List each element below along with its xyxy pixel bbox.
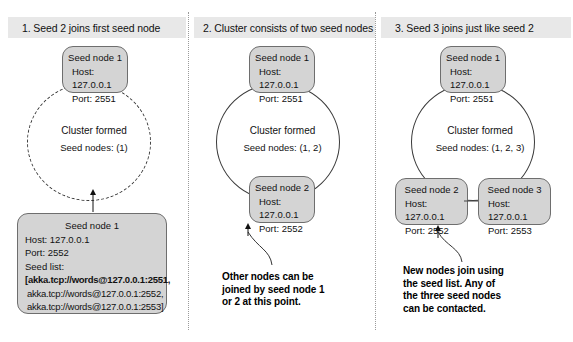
- node-seed-node-1-top: Seed node 1 Host: 127.0.0.1 Port: 2551: [62, 46, 128, 93]
- node-seed-list-entry-3: akka.tcp://words@127.0.0.1:2553]: [18, 300, 166, 314]
- node-host: Host: 127.0.0.1: [250, 195, 314, 222]
- node-host: Host: 127.0.0.1: [250, 65, 314, 92]
- node-port: Port: 2551: [441, 92, 505, 106]
- node-host: Host: 127.0.0.1: [63, 65, 127, 92]
- cluster-seed-nodes-3: Seed nodes: (1, 2, 3): [377, 142, 573, 153]
- node-seed-node-2: Seed node 2 Host: 127.0.0.1 Port: 2552: [395, 178, 468, 225]
- node-port: Port: 2551: [63, 92, 127, 106]
- node-title: Seed node 1: [441, 51, 505, 65]
- cluster-seed-node-diagram: 1. Seed 2 joins first seed node Cluster …: [0, 0, 573, 342]
- node-host: Host: 127.0.0.1: [18, 233, 166, 247]
- callout-panel-3: New nodes join using the seed list. Any …: [403, 265, 553, 315]
- cluster-title-1: Cluster formed: [0, 123, 188, 138]
- node-seed-node-1: Seed node 1 Host: 127.0.0.1 Port: 2551: [440, 46, 506, 93]
- cluster-title-3: Cluster formed: [377, 123, 573, 138]
- callout-panel-2: Other nodes can be joined by seed node 1…: [222, 271, 362, 309]
- cluster-title-2: Cluster formed: [190, 123, 375, 138]
- node-seed-node-1: Seed node 1 Host: 127.0.0.1 Port: 2551: [249, 46, 315, 93]
- node-seed-node-1-bottom: Seed node 1 Host: 127.0.0.1 Port: 2552 S…: [17, 213, 167, 314]
- panel-2-header: 2. Cluster consists of two seed nodes: [194, 17, 375, 38]
- panel-3-header: 3. Seed 3 joins just like seed 2: [381, 17, 571, 38]
- node-port: Port: 2552: [18, 246, 166, 260]
- node-title: Seed node 2: [396, 183, 467, 197]
- node-title: Seed node 1: [63, 51, 127, 65]
- node-title: Seed node 2: [250, 181, 314, 195]
- node-title: Seed node 1: [250, 51, 314, 65]
- node-seed-node-3: Seed node 3 Host: 127.0.0.1 Port: 2553: [478, 178, 551, 225]
- panel-divider-1: [188, 12, 189, 330]
- node-host: Host: 127.0.0.1: [396, 197, 467, 224]
- node-seed-list-entry-2: akka.tcp://words@127.0.0.1:2552,: [18, 287, 166, 301]
- panel-step-3: 3. Seed 3 joins just like seed 2 Cluster…: [377, 0, 573, 342]
- node-seed-node-2: Seed node 2 Host: 127.0.0.1 Port: 2552: [249, 176, 315, 223]
- panel-divider-2: [375, 12, 376, 330]
- node-port: Port: 2553: [479, 224, 550, 238]
- node-title: Seed node 1: [18, 219, 166, 233]
- cluster-seed-nodes-1: Seed nodes: (1): [0, 142, 188, 153]
- node-host: Host: 127.0.0.1: [441, 65, 505, 92]
- node-host: Host: 127.0.0.1: [479, 197, 550, 224]
- node-port: Port: 2551: [250, 92, 314, 106]
- node-port: Port: 2552: [396, 224, 467, 238]
- node-seed-list-entry-1: [akka.tcp://words@127.0.0.1:2551,: [18, 273, 166, 287]
- node-title: Seed node 3: [479, 183, 550, 197]
- cluster-seed-nodes-2: Seed nodes: (1, 2): [190, 142, 375, 153]
- panel-step-2: 2. Cluster consists of two seed nodes Cl…: [190, 0, 375, 342]
- node-seed-list-label: Seed list:: [18, 260, 166, 274]
- node-port: Port: 2552: [250, 222, 314, 236]
- panel-1-header: 1. Seed 2 joins first seed node: [8, 17, 186, 38]
- panel-step-1: 1. Seed 2 joins first seed node Cluster …: [0, 0, 188, 342]
